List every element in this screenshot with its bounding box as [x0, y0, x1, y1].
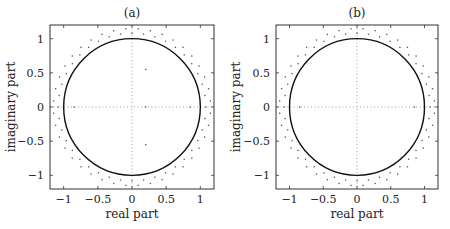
y-tick-label: −1: [28, 169, 44, 182]
x-axis-label: real part: [330, 207, 383, 221]
y-tick-label: 0: [263, 101, 270, 114]
y-tick-label: 1: [37, 33, 44, 46]
x-tick-label: −1: [281, 193, 297, 206]
points-outer-points-ring-1: [58, 33, 207, 182]
x-tick-label: 1: [421, 193, 428, 206]
y-tick-label: −0.5: [243, 135, 270, 148]
panel-a: (a)−1−0.500.51−1−0.500.51real partimagin…: [0, 0, 225, 229]
y-tick-label: −1: [254, 169, 270, 182]
y-tick-label: 1: [263, 33, 270, 46]
x-tick-label: 0: [354, 193, 361, 206]
y-tick-label: 0.5: [253, 67, 271, 80]
y-axis-label: imaginary part: [229, 62, 243, 153]
x-ticks: −1−0.500.51: [56, 25, 204, 206]
chart-title: (a): [124, 6, 141, 20]
y-axis-label: imaginary part: [4, 62, 18, 153]
y-tick-label: 0: [37, 101, 44, 114]
x-tick-label: −0.5: [84, 193, 111, 206]
x-tick-label: 0.5: [382, 193, 400, 206]
x-tick-label: 1: [197, 193, 204, 206]
panel-b: (b)−1−0.500.51−1−0.500.51real partimagin…: [225, 0, 450, 229]
x-tick-label: −1: [56, 193, 72, 206]
y-tick-label: −0.5: [17, 135, 44, 148]
x-tick-label: −0.5: [310, 193, 337, 206]
x-tick-label: 0.5: [157, 193, 175, 206]
plot-a: (a)−1−0.500.51−1−0.500.51real partimagin…: [0, 0, 225, 229]
chart-title: (b): [348, 6, 365, 20]
x-ticks: −1−0.500.51: [281, 25, 428, 206]
x-tick-label: 0: [129, 193, 136, 206]
plot-b: (b)−1−0.500.51−1−0.500.51real partimagin…: [225, 0, 450, 229]
x-axis-label: real part: [105, 207, 158, 221]
y-tick-label: 0.5: [27, 67, 45, 80]
